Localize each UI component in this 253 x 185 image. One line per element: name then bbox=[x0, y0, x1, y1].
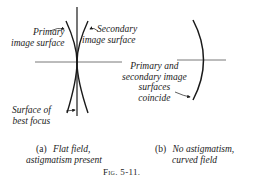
caption-b-line2: curved field bbox=[172, 155, 234, 166]
primary-image-surface-label: Primary image surface bbox=[8, 27, 65, 48]
panel-a-tag: (a) bbox=[36, 144, 47, 154]
label-line: Surface of bbox=[12, 105, 51, 116]
coincide-label: Primary and secondary image surfaces coi… bbox=[122, 61, 187, 103]
label-line: image surface bbox=[11, 38, 65, 49]
caption-a-line2: astigmatism present bbox=[26, 155, 102, 166]
panel-b-tag: (b) bbox=[155, 144, 166, 154]
panel-a-caption-2: astigmatism present bbox=[26, 155, 102, 165]
label-line: Secondary bbox=[97, 24, 137, 35]
label-line: surfaces bbox=[122, 82, 187, 93]
caption-panel-a: (a) Flat field, astigmatism present bbox=[26, 144, 102, 166]
caption-a-line1: (a) Flat field, bbox=[36, 144, 102, 155]
label-line: image surface bbox=[82, 35, 137, 46]
best-focus-label: Surface of best focus bbox=[12, 105, 51, 126]
primary-image-surface-curve bbox=[66, 21, 77, 113]
panel-b-caption-1: No astigmatism, bbox=[172, 144, 234, 154]
panel-a-caption-1: Flat field, bbox=[53, 144, 90, 154]
panel-b-caption-2: curved field bbox=[172, 155, 217, 165]
secondary-image-surface-label: Secondary image surface bbox=[82, 24, 137, 45]
label-line: coincide bbox=[122, 93, 187, 104]
caption-panel-b: (b) No astigmatism, curved field bbox=[155, 144, 234, 166]
label-line: best focus bbox=[12, 116, 51, 127]
label-line: secondary image bbox=[122, 72, 187, 83]
caption-b-line1: (b) No astigmatism, bbox=[155, 144, 234, 155]
figure-number: Fig. 5-11. bbox=[103, 167, 140, 177]
label-line: Primary and bbox=[122, 61, 187, 72]
label-line: Primary bbox=[8, 27, 65, 38]
